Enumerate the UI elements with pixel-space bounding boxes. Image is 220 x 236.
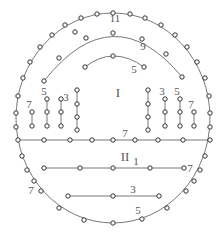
blast-hole-icon xyxy=(42,138,46,142)
blast-hole-icon xyxy=(181,138,185,142)
blast-hole-icon xyxy=(208,125,212,129)
blast-hole-icon xyxy=(14,125,18,129)
contour-label: 7 xyxy=(28,184,34,196)
outer-contour-line xyxy=(16,13,210,223)
blast-hole-icon xyxy=(21,76,25,80)
blast-hole-icon xyxy=(156,138,160,142)
column-label: 7 xyxy=(188,98,194,110)
blast-hole-icon xyxy=(111,31,115,35)
blast-hole-diagram: 1195717375335775III xyxy=(0,0,220,236)
blast-hole-icon xyxy=(42,79,46,83)
blast-hole-icon xyxy=(16,94,20,98)
blast-hole-icon xyxy=(146,102,150,106)
blast-hole-icon xyxy=(146,115,150,119)
blast-hole-icon xyxy=(143,16,147,20)
blast-holes xyxy=(14,11,212,225)
blast-hole-icon xyxy=(111,166,115,170)
blast-hole-icon xyxy=(38,45,42,49)
blast-hole-icon xyxy=(68,138,72,142)
row-label: 7 xyxy=(187,162,193,174)
arc-label: 5 xyxy=(131,63,137,75)
column-label: 5 xyxy=(41,85,47,97)
region-II-label: II xyxy=(121,149,130,164)
row-label: 7 xyxy=(122,127,128,139)
blast-hole-icon xyxy=(73,30,77,34)
blast-hole-icon xyxy=(185,45,189,49)
arc-line xyxy=(44,36,182,81)
blast-hole-icon xyxy=(111,194,115,198)
blast-hole-icon xyxy=(178,97,182,101)
blast-hole-icon xyxy=(111,221,115,225)
blast-hole-icon xyxy=(79,16,83,20)
blast-hole-icon xyxy=(75,128,79,132)
blast-hole-icon xyxy=(159,23,163,27)
blast-hole-icon xyxy=(95,12,99,16)
blast-hole-icon xyxy=(198,168,202,172)
blast-hole-icon xyxy=(111,54,115,58)
blast-hole-icon xyxy=(83,65,87,69)
column-label: 5 xyxy=(174,85,180,97)
blast-hole-icon xyxy=(16,138,20,142)
blast-hole-icon xyxy=(45,110,49,114)
blast-hole-icon xyxy=(75,102,79,106)
blast-hole-icon xyxy=(203,76,207,80)
region-I-label: I xyxy=(116,85,120,100)
blast-hole-icon xyxy=(42,166,46,170)
blast-hole-icon xyxy=(142,65,146,69)
blast-hole-icon xyxy=(45,97,49,101)
blast-hole-icon xyxy=(164,52,168,56)
blast-hole-icon xyxy=(57,206,61,210)
blast-hole-icon xyxy=(178,110,182,114)
blast-hole-icon xyxy=(59,110,63,114)
blast-hole-icon xyxy=(192,110,196,114)
blast-hole-icon xyxy=(178,124,182,128)
blast-hole-icon xyxy=(20,154,24,158)
column-label: 3 xyxy=(159,85,165,97)
blast-hole-icon xyxy=(192,179,196,183)
blast-hole-icon xyxy=(203,154,207,158)
blast-hole-icon xyxy=(75,88,79,92)
blast-hole-icon xyxy=(30,110,34,114)
blast-hole-icon xyxy=(90,138,94,142)
blast-hole-icon xyxy=(66,194,70,198)
column-label: 7 xyxy=(26,98,32,110)
blast-hole-icon xyxy=(165,206,169,210)
blast-hole-icon xyxy=(163,124,167,128)
blast-hole-icon xyxy=(84,36,88,40)
contour-label: 5 xyxy=(135,204,141,216)
hole-group-labels: 1195717375335775III xyxy=(26,12,194,216)
blast-hole-icon xyxy=(59,124,63,128)
blast-hole-icon xyxy=(163,97,167,101)
arc-label: 9 xyxy=(140,40,146,52)
blast-hole-icon xyxy=(208,138,212,142)
blast-hole-icon xyxy=(30,124,34,128)
blast-hole-icon xyxy=(14,111,18,115)
blast-hole-icon xyxy=(207,94,211,98)
blast-hole-icon xyxy=(146,128,150,132)
column-label: 3 xyxy=(63,91,69,103)
contour-lines xyxy=(16,13,210,223)
blast-hole-icon xyxy=(128,12,132,16)
blast-hole-icon xyxy=(146,88,150,92)
blast-hole-icon xyxy=(140,217,144,221)
blast-hole-icon xyxy=(195,60,199,64)
blast-hole-icon xyxy=(111,138,115,142)
row-label: 1 xyxy=(133,155,139,167)
row-label: 3 xyxy=(130,183,136,195)
blast-hole-icon xyxy=(28,60,32,64)
blast-hole-icon xyxy=(173,33,177,37)
blast-hole-icon xyxy=(133,138,137,142)
blast-hole-icon xyxy=(63,23,67,27)
blast-hole-icon xyxy=(75,115,79,119)
blast-hole-icon xyxy=(180,75,184,79)
blast-hole-icon xyxy=(82,218,86,222)
blast-hole-icon xyxy=(192,124,196,128)
blast-hole-icon xyxy=(50,33,54,37)
outer-contour-label: 11 xyxy=(110,12,121,24)
blast-hole-icon xyxy=(45,124,49,128)
blast-hole-icon xyxy=(57,56,61,60)
blast-hole-icon xyxy=(39,189,43,193)
blast-hole-icon xyxy=(163,110,167,114)
blast-hole-icon xyxy=(208,111,212,115)
blast-hole-icon xyxy=(182,166,186,170)
